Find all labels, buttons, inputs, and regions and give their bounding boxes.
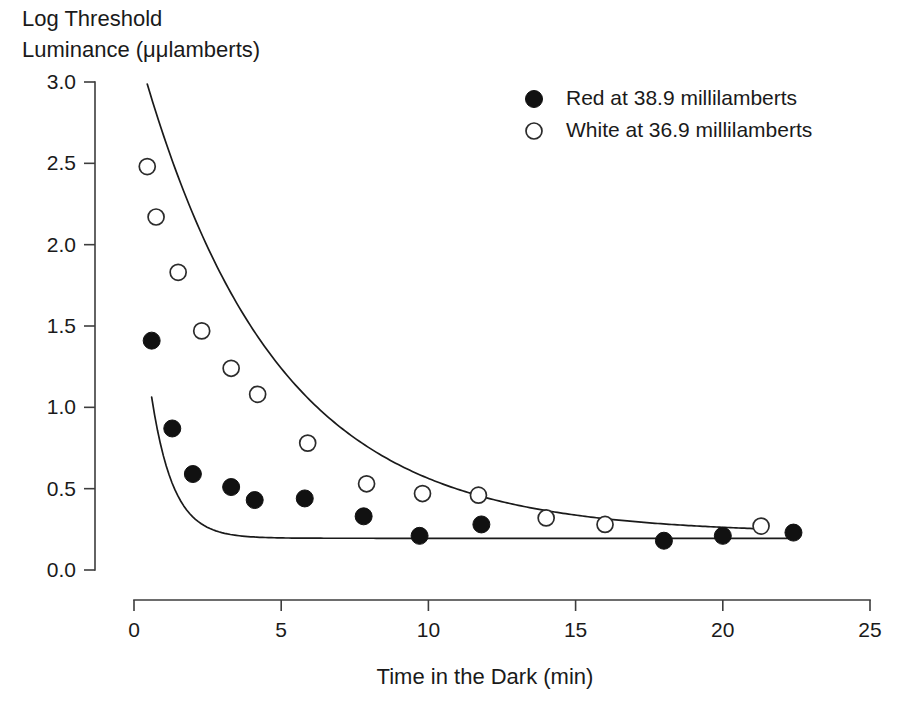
data-point-series-1	[470, 487, 486, 503]
data-point-series-0	[785, 524, 802, 541]
x-tick-label: 0	[128, 618, 140, 641]
y-axis-title-line2: Luminance (μμlamberts)	[22, 37, 260, 62]
legend-marker-open-circle-icon	[526, 123, 542, 139]
fit-curve-series-1	[147, 84, 761, 529]
data-point-series-0	[143, 332, 160, 349]
data-point-series-0	[411, 527, 428, 544]
y-tick-label: 3.0	[47, 70, 76, 93]
data-point-series-1	[194, 323, 210, 339]
x-tick-label: 10	[417, 618, 440, 641]
y-tick-label: 2.0	[47, 233, 76, 256]
y-tick-label: 2.5	[47, 151, 76, 174]
x-tick-label: 25	[858, 618, 881, 641]
legend-marker-filled-circle-icon	[526, 91, 543, 108]
data-point-series-1	[300, 435, 316, 451]
data-point-series-0	[223, 479, 240, 496]
dark-adaptation-chart: Log Threshold Luminance (μμlamberts) 0.0…	[0, 0, 923, 708]
y-tick-label: 0.0	[47, 558, 76, 581]
data-point-series-0	[164, 420, 181, 437]
data-point-series-0	[355, 508, 372, 525]
x-tick-label: 20	[711, 618, 734, 641]
data-point-series-1	[753, 518, 769, 534]
data-points	[139, 159, 802, 550]
x-tick-label: 5	[275, 618, 287, 641]
data-point-series-0	[184, 466, 201, 483]
data-point-series-0	[655, 532, 672, 549]
fit-curve-series-0	[152, 397, 794, 538]
x-axis-title: Time in the Dark (min)	[377, 664, 594, 689]
chart-container: Log Threshold Luminance (μμlamberts) 0.0…	[0, 0, 923, 708]
y-axis: 0.00.51.01.52.02.53.0	[47, 70, 95, 581]
data-point-series-1	[415, 486, 431, 502]
data-point-series-0	[714, 527, 731, 544]
data-point-series-1	[148, 209, 164, 225]
data-point-series-1	[223, 360, 239, 376]
y-tick-label: 1.0	[47, 395, 76, 418]
x-tick-label: 15	[564, 618, 587, 641]
fit-curves	[147, 84, 793, 538]
data-point-series-1	[359, 476, 375, 492]
x-axis: 0510152025	[128, 600, 882, 641]
data-point-series-0	[473, 516, 490, 533]
data-point-series-1	[250, 386, 266, 402]
data-point-series-1	[597, 516, 613, 532]
y-axis-title-line1: Log Threshold	[22, 6, 162, 31]
data-point-series-1	[170, 264, 186, 280]
legend: Red at 38.9 millilambertsWhite at 36.9 m…	[526, 86, 813, 141]
legend-label: White at 36.9 millilamberts	[566, 118, 812, 141]
data-point-series-1	[538, 510, 554, 526]
legend-label: Red at 38.9 millilamberts	[566, 86, 797, 109]
y-tick-label: 1.5	[47, 314, 76, 337]
data-point-series-1	[139, 159, 155, 175]
y-tick-label: 0.5	[47, 477, 76, 500]
data-point-series-0	[246, 492, 263, 509]
data-point-series-0	[296, 490, 313, 507]
